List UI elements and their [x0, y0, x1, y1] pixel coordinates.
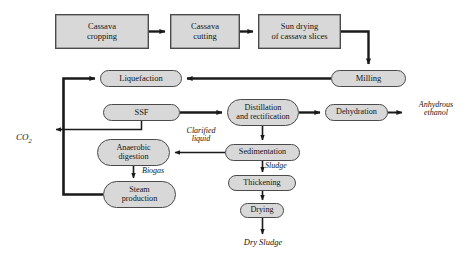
- node-label: Milling: [332, 74, 405, 83]
- stream-label-biogas: Biogas: [142, 167, 182, 175]
- connector-ssf-to-co2: [56, 121, 142, 130]
- node-label: Liquefaction: [101, 74, 181, 83]
- stream-label-anhydrous-ethanol: Anhydrous ethanol: [404, 101, 468, 118]
- node-thickening[interactable]: Thickening: [228, 175, 296, 191]
- node-sun-drying[interactable]: Sun drying of cassava slices: [258, 14, 341, 49]
- node-distillation-and-rectification[interactable]: Distillation and rectification: [227, 99, 299, 126]
- stream-label-clarified-liquid: Clarified liquid: [175, 127, 227, 144]
- stream-label-sludge: Sludge: [265, 162, 305, 170]
- node-label: Distillation and rectification: [228, 104, 298, 122]
- co2-subscript: 2: [29, 136, 32, 143]
- connector-steam-to-liquefaction: [64, 79, 104, 195]
- node-cassava-cutting[interactable]: Cassava cutting: [170, 14, 240, 49]
- process-flow-diagram: Cassava cropping Cassava cutting Sun dry…: [0, 0, 473, 258]
- node-label: Cassava cutting: [171, 22, 239, 40]
- node-label: Cassava cropping: [56, 22, 148, 40]
- node-liquefaction[interactable]: Liquefaction: [100, 70, 182, 87]
- stream-label-dry-sludge: Dry Sludge: [232, 238, 294, 247]
- node-label: Sedimentation: [226, 148, 299, 157]
- node-drying[interactable]: Drying: [240, 203, 284, 218]
- node-steam-production[interactable]: Steam production: [103, 181, 176, 208]
- node-dehydration[interactable]: Dehydration: [325, 104, 388, 121]
- node-sedimentation[interactable]: Sedimentation: [225, 144, 300, 161]
- node-anaerobic-digestion[interactable]: Anaerobic digestion: [97, 139, 170, 166]
- node-label: Steam production: [104, 186, 175, 204]
- node-cassava-cropping[interactable]: Cassava cropping: [55, 14, 149, 49]
- connector-sun-drying-to-milling: [341, 32, 369, 65]
- node-label: Sun drying of cassava slices: [259, 22, 340, 40]
- node-label: Drying: [241, 206, 283, 215]
- node-label: Thickening: [229, 179, 295, 188]
- stream-label-co2: CO2: [16, 123, 56, 144]
- node-milling[interactable]: Milling: [331, 70, 406, 87]
- node-label: Anaerobic digestion: [98, 144, 169, 162]
- co2-text: CO2: [16, 132, 32, 142]
- node-label: Dehydration: [326, 108, 387, 117]
- node-ssf[interactable]: SSF: [103, 104, 180, 121]
- node-label: SSF: [104, 108, 179, 117]
